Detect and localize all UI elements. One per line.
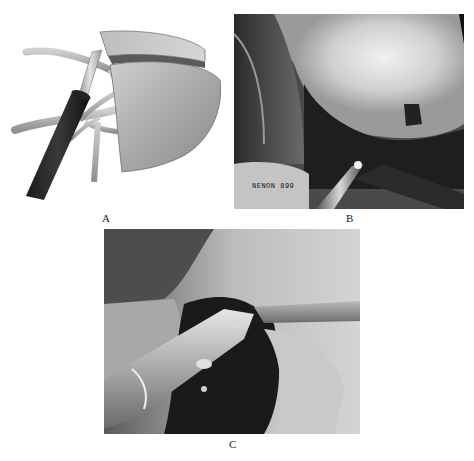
endoscopic-image-b (234, 14, 464, 209)
panel-a-illustration (10, 10, 230, 210)
instrument-illustration (10, 10, 230, 210)
panel-label-a: A (102, 213, 110, 224)
video-overlay-text: NENON 899 (251, 182, 295, 190)
panel-label-b: B (346, 213, 353, 224)
panel-label-c: C (229, 439, 236, 450)
panel-c-photo (104, 229, 360, 434)
endoscopic-image-c (104, 229, 360, 434)
panel-b-photo: NENON 899 (234, 14, 464, 209)
